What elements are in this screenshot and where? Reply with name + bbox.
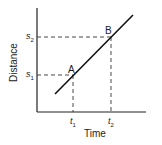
t1-tick-label: t1 [70,116,77,128]
point-a-label: A [68,64,75,75]
x-axis-title: Time [84,128,106,139]
point-b-label: B [105,25,112,36]
t2-tick-label: t2 [108,116,115,128]
distance-line [55,15,133,94]
distance-time-graph: A B s2 s1 t1 t2 Time Distance [0,0,162,145]
s2-tick-label: s2 [26,31,35,43]
s1-tick-label: s1 [26,69,35,81]
y-axis-title: Distance [8,43,19,82]
